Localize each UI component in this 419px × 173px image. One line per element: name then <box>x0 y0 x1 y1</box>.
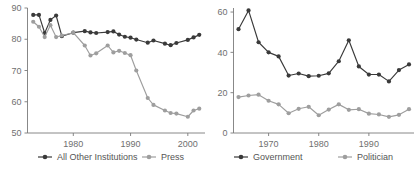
data-point <box>169 111 173 115</box>
data-point <box>317 113 321 117</box>
chart-panel-right: 0204060 197019801990 GovernmentPoliticia… <box>210 0 419 173</box>
data-point <box>94 51 98 55</box>
data-point <box>191 35 195 39</box>
left-y-tick-label: 50 <box>11 128 21 138</box>
data-point <box>43 35 47 39</box>
data-point <box>357 64 361 68</box>
chart-panel-left: 5060708090 198019902000 All Other Instit… <box>0 0 210 173</box>
legend-label: Government <box>253 152 303 162</box>
left-y-tick-group: 5060708090 <box>11 3 27 138</box>
data-point <box>54 35 58 39</box>
series-line-all-other-institutions <box>33 15 199 45</box>
data-point <box>307 105 311 109</box>
data-point <box>347 108 351 112</box>
left-y-tick-label: 70 <box>11 66 21 76</box>
data-point <box>83 43 87 47</box>
data-point <box>267 99 271 103</box>
data-point <box>397 113 401 117</box>
series-line-politician <box>239 95 409 117</box>
data-point <box>37 13 41 17</box>
left-legend: All Other InstitutionsPress <box>38 152 185 162</box>
data-point <box>123 35 127 39</box>
data-point <box>407 62 411 66</box>
right-y-tick-label: 0 <box>222 128 227 138</box>
right-axes <box>234 8 415 133</box>
legend-label: Press <box>161 152 185 162</box>
data-point <box>134 68 138 72</box>
data-point <box>307 74 311 78</box>
data-point <box>174 41 178 45</box>
data-point <box>163 108 167 112</box>
data-point <box>377 112 381 116</box>
data-point <box>337 59 341 63</box>
data-point <box>277 102 281 106</box>
right-y-tick-label: 40 <box>217 48 227 58</box>
legend-swatch-marker <box>147 155 152 160</box>
left-x-tick-group: 198019902000 <box>63 133 198 149</box>
data-point <box>287 73 291 77</box>
data-point <box>236 95 240 99</box>
right-x-tick-label: 1970 <box>259 139 279 149</box>
data-point <box>367 72 371 76</box>
left-y-tick-label: 60 <box>11 97 21 107</box>
data-point <box>146 96 150 100</box>
data-point <box>186 115 190 119</box>
data-point <box>123 51 127 55</box>
chart-left-svg: 5060708090 198019902000 All Other Instit… <box>0 0 210 173</box>
data-point <box>88 53 92 57</box>
data-point <box>297 107 301 111</box>
data-point <box>357 107 361 111</box>
right-y-tick-label: 20 <box>217 88 227 98</box>
data-point <box>197 33 201 37</box>
left-x-tick-label: 1980 <box>63 139 83 149</box>
legend-swatch-marker <box>239 155 244 160</box>
left-series-group <box>31 13 201 119</box>
right-y-tick-label: 60 <box>217 7 227 17</box>
legend-label: All Other Institutions <box>57 152 138 162</box>
data-point <box>397 68 401 72</box>
data-point <box>31 20 35 24</box>
data-point <box>169 43 173 47</box>
chart-figure: 5060708090 198019902000 All Other Instit… <box>0 0 419 173</box>
data-point <box>287 111 291 115</box>
data-point <box>60 33 64 37</box>
legend-swatch-marker <box>343 155 348 160</box>
data-point <box>256 40 260 44</box>
data-point <box>407 107 411 111</box>
data-point <box>106 30 110 34</box>
data-point <box>256 93 260 97</box>
data-point <box>327 71 331 75</box>
data-point <box>151 103 155 107</box>
data-point <box>377 72 381 76</box>
left-y-tick-label: 80 <box>11 34 21 44</box>
data-point <box>246 8 250 12</box>
data-point <box>128 53 132 57</box>
data-point <box>31 13 35 17</box>
data-point <box>48 18 52 22</box>
data-point <box>387 79 391 83</box>
legend-label: Politician <box>357 152 393 162</box>
right-y-tick-group: 0204060 <box>217 7 233 138</box>
right-x-tick-label: 1980 <box>309 139 329 149</box>
data-point <box>347 38 351 42</box>
data-point <box>37 25 41 29</box>
data-point <box>387 115 391 119</box>
data-point <box>54 13 58 17</box>
data-point <box>48 23 52 27</box>
data-point <box>151 38 155 42</box>
series-line-government <box>239 10 409 81</box>
right-legend: GovernmentPolitician <box>234 152 393 162</box>
right-x-tick-group: 197019801990 <box>259 133 379 149</box>
series-line-press <box>33 22 199 117</box>
data-point <box>88 30 92 34</box>
data-point <box>327 108 331 112</box>
data-point <box>236 27 240 31</box>
data-point <box>94 31 98 35</box>
data-point <box>191 108 195 112</box>
data-point <box>117 49 121 53</box>
data-point <box>117 32 121 36</box>
data-point <box>71 31 75 35</box>
data-point <box>111 50 115 54</box>
data-point <box>297 71 301 75</box>
chart-right-svg: 0204060 197019801990 GovernmentPoliticia… <box>210 0 419 173</box>
